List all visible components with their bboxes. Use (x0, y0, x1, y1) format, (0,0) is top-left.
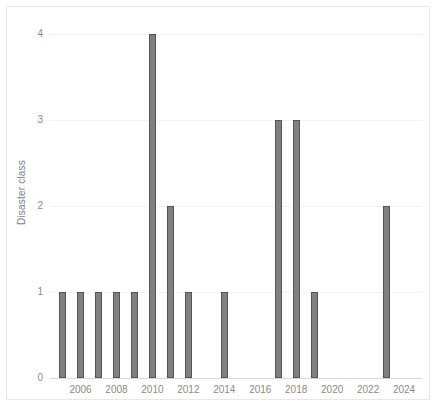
x-tick-label-2024: 2024 (382, 384, 426, 395)
chart-container: Disaster class 01234 2006200820102012201… (0, 0, 437, 408)
x-axis-tick-labels: 2006200820102012201420162018202020222024 (0, 0, 437, 408)
